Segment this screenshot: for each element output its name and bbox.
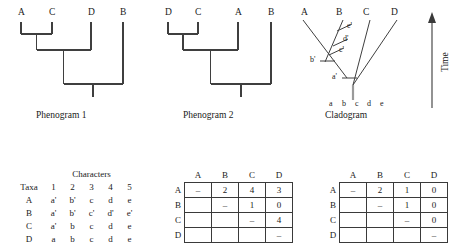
cladogram-mark-c-prime: c': [339, 46, 344, 54]
phenogram1-tip-label-b: B: [120, 8, 126, 18]
matrix-middle-cell-d-c: [239, 227, 266, 242]
table-row: B – 1 0: [172, 197, 293, 212]
matrix-right-cell-c-d: 0: [421, 212, 448, 227]
character-row-taxon-a: A: [14, 194, 44, 207]
character-table-title: Characters: [44, 168, 139, 181]
character-cell-a-2: b': [63, 194, 82, 207]
character-cell-d-3: c: [82, 233, 101, 246]
matrix-middle-cell-b-a: [185, 197, 212, 212]
character-cell-a-3: c: [82, 194, 101, 207]
distance-matrix-middle-block: A B C D A – 2 4 3 B – 1: [172, 168, 293, 243]
matrix-middle-row-header-d: D: [172, 227, 185, 242]
matrix-right-cell-d-d: –: [421, 227, 448, 242]
character-cell-a-5: e: [120, 194, 139, 207]
matrix-middle-cell-c-b: [212, 212, 239, 227]
matrix-middle-row-header-c: C: [172, 212, 185, 227]
matrix-right-col-header-c: C: [394, 168, 421, 182]
table-row: C a' b c d e: [14, 220, 139, 233]
character-header-1: 1: [44, 181, 63, 194]
matrix-middle-cell-c-d: 4: [266, 212, 293, 227]
character-row-taxon-c: C: [14, 220, 44, 233]
character-cell-b-3: c': [82, 207, 101, 220]
character-header-5: 5: [120, 181, 139, 194]
cladogram-ancestral-state-e: e: [380, 100, 384, 108]
cladogram-mark-a-prime: a': [332, 73, 337, 81]
matrix-middle-cell-d-d: –: [266, 227, 293, 242]
matrix-middle-cell-a-a: –: [185, 182, 212, 197]
matrix-middle-col-header-c: C: [239, 168, 266, 182]
character-table-header-row: Taxa 1 2 3 4 5: [14, 181, 139, 194]
matrix-middle-col-header-b: B: [212, 168, 239, 182]
matrix-right-cell-a-a: –: [340, 182, 367, 197]
character-cell-d-4: d: [101, 233, 120, 246]
matrix-right-cell-b-d: 0: [421, 197, 448, 212]
matrix-middle-row-header-b: B: [172, 197, 185, 212]
distance-matrix-right-block: A B C D A – 2 1 0 B – 1: [327, 168, 448, 243]
matrix-right-cell-c-c: –: [394, 212, 421, 227]
character-header-4: 4: [101, 181, 120, 194]
character-cell-b-1: a': [44, 207, 63, 220]
phenogram1-caption: Phenogram 1: [36, 110, 86, 120]
matrix-right-cell-d-b: [367, 227, 394, 242]
cladogram-tip-label-a: A: [301, 8, 308, 18]
matrix-right-cell-b-a: [340, 197, 367, 212]
matrix-right-corner: [327, 168, 340, 182]
character-cell-c-3: c: [82, 220, 101, 233]
matrix-right-col-header-d: D: [421, 168, 448, 182]
cladogram-tip-label-b: B: [336, 8, 342, 18]
character-table-title-spacer: [14, 168, 44, 181]
character-header-2: 2: [63, 181, 82, 194]
matrix-right-cell-d-a: [340, 227, 367, 242]
phenogram2-tip-label-b: B: [268, 8, 274, 18]
character-table-title-row: Characters: [14, 168, 139, 181]
phenogram2-tip-label-d: D: [165, 8, 172, 18]
matrix-middle-cell-b-b: –: [212, 197, 239, 212]
character-table: Characters Taxa 1 2 3 4 5 A a' b' c d: [14, 168, 139, 246]
phenogram2-tip-label-c: C: [195, 8, 201, 18]
matrix-middle-cell-c-a: [185, 212, 212, 227]
character-cell-b-2: b': [63, 207, 82, 220]
character-header-3: 3: [82, 181, 101, 194]
character-cell-c-5: e: [120, 220, 139, 233]
character-cell-c-1: a': [44, 220, 63, 233]
character-cell-d-5: e: [120, 233, 139, 246]
character-cell-b-4: d': [101, 207, 120, 220]
table-row: C – 0: [327, 212, 448, 227]
matrix-middle-cell-a-d: 3: [266, 182, 293, 197]
matrix-right-row-header-a: A: [327, 182, 340, 197]
cladogram-ancestral-state-a: a: [329, 100, 333, 108]
matrix-middle-cell-a-c: 4: [239, 182, 266, 197]
matrix-middle-cell-b-d: 0: [266, 197, 293, 212]
matrix-right-header-row: A B C D: [327, 168, 448, 182]
character-table-taxa-header: Taxa: [14, 181, 44, 194]
matrix-middle-cell-a-b: 2: [212, 182, 239, 197]
cladogram-ancestral-state-c: c: [355, 100, 359, 108]
matrix-right-cell-a-d: 0: [421, 182, 448, 197]
matrix-middle-corner: [172, 168, 185, 182]
phenogram1-tip-label-c: C: [49, 8, 55, 18]
matrix-right-cell-b-b: –: [367, 197, 394, 212]
character-row-taxon-b: B: [14, 207, 44, 220]
matrix-right-cell-d-c: [394, 227, 421, 242]
character-cell-b-5: e': [120, 207, 139, 220]
table-row: B – 1 0: [327, 197, 448, 212]
matrix-middle-header-row: A B C D: [172, 168, 293, 182]
matrix-middle-cell-d-b: [212, 227, 239, 242]
cladogram-mark-e-prime: e': [347, 22, 352, 30]
panel-cladogram: A B C D: [295, 0, 453, 132]
phenogram1-tip-label-a: A: [18, 8, 25, 18]
character-table-block: Characters Taxa 1 2 3 4 5 A a' b' c d: [14, 168, 139, 246]
matrix-middle-cell-b-c: 1: [239, 197, 266, 212]
cladogram-mark-b-prime: b': [310, 56, 315, 64]
character-cell-c-4: d: [101, 220, 120, 233]
matrix-right-cell-c-a: [340, 212, 367, 227]
cladogram-tip-label-d: D: [391, 8, 398, 18]
phenogram2-caption: Phenogram 2: [183, 110, 233, 120]
cladogram-ancestral-state-d: d: [367, 100, 371, 108]
table-row: D –: [172, 227, 293, 242]
character-cell-d-2: b: [63, 233, 82, 246]
distance-matrix-right: A B C D A – 2 1 0 B – 1: [327, 168, 448, 243]
table-row: B a' b' c' d' e': [14, 207, 139, 220]
character-cell-d-1: a: [44, 233, 63, 246]
distance-matrix-middle: A B C D A – 2 4 3 B – 1: [172, 168, 293, 243]
